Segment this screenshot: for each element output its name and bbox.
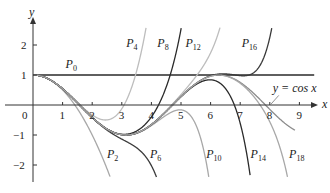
label-p14: P14: [250, 147, 266, 163]
taylor-polynomials-chart: x y 012345678921−1−2 P0P2P4P6P8P10P12P14…: [0, 0, 330, 193]
label-cos-x: y = cos x: [272, 81, 317, 95]
series-labels: P0P2P4P6P8P10P12P14P16P18y = cos x: [65, 36, 318, 163]
x-tick-label: 8: [267, 109, 273, 121]
label-p0: P0: [65, 57, 77, 73]
x-tick-label: 5: [178, 109, 184, 121]
x-tick-label: 4: [148, 109, 154, 121]
label-p18: P18: [288, 147, 304, 163]
y-tick-label: 2: [21, 39, 27, 51]
x-axis-label: x: [321, 97, 328, 111]
y-tick-label: −1: [13, 129, 25, 141]
x-tick-label: 0: [22, 109, 28, 121]
label-p6: P6: [149, 147, 161, 163]
label-p4: P4: [125, 36, 137, 52]
label-p16: P16: [241, 36, 257, 52]
x-tick-label: 3: [119, 109, 125, 121]
x-tick-label: 1: [60, 109, 66, 121]
x-tick-label: 7: [237, 109, 243, 121]
y-tick-label: 1: [21, 69, 27, 81]
y-axis-label: y: [28, 5, 35, 19]
series-p2: [33, 75, 110, 177]
label-p2: P2: [106, 147, 118, 163]
x-tick-label: 9: [296, 109, 302, 121]
x-tick-label: 2: [89, 109, 95, 121]
series-p6: [33, 75, 156, 177]
series-p10: [33, 75, 209, 177]
x-axis-arrow-icon: [311, 102, 318, 108]
label-p8: P8: [156, 36, 168, 52]
y-tick-label: −2: [13, 159, 25, 171]
curves: [33, 28, 314, 177]
x-tick-label: 6: [208, 109, 214, 121]
cos-label-pointer: [271, 95, 279, 104]
label-p12: P12: [184, 36, 200, 52]
label-p10: P10: [205, 147, 221, 163]
